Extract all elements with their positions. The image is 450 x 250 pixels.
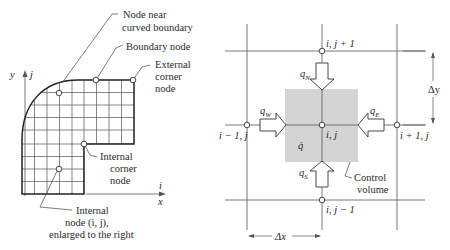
node-top [319, 48, 325, 54]
axis-label-x: x [157, 196, 163, 207]
node-center [319, 122, 325, 128]
label-node-near-1: Node near [123, 9, 167, 20]
axis-label-j: j [28, 69, 33, 80]
label-dy: Δy [428, 84, 441, 95]
label-flux-east: qE [370, 105, 380, 119]
node-near-curved-boundary [56, 90, 62, 96]
y-axis-arrow-icon [23, 70, 28, 77]
leader-control-volume [345, 162, 352, 178]
label-internal-corner-1: Internal [100, 151, 133, 162]
label-flux-west: qW [260, 105, 272, 119]
label-node-top: i, j + 1 [326, 38, 355, 49]
label-internal-node-1: Internal [76, 205, 109, 216]
label-control-volume-1: Control [354, 172, 386, 183]
node-bottom [319, 197, 325, 203]
right-stencil-diagram: i, j + 1 i, j i − 1, j i + 1, j i, j − 1… [219, 24, 441, 242]
label-internal-corner-3: node [110, 175, 131, 186]
external-corner-node [130, 77, 136, 83]
dx-arrow-left-icon [248, 234, 254, 238]
label-boundary-node: Boundary node [126, 41, 191, 52]
internal-node [56, 166, 62, 172]
left-mesh-diagram: Node near curved boundary Boundary node … [9, 9, 194, 240]
leader-external-corner [133, 65, 150, 80]
label-external-corner-2: corner [155, 71, 182, 82]
flux-arrow-west-icon [260, 113, 286, 137]
dy-arrow-down-icon [431, 118, 435, 124]
label-flux-north: qN [300, 68, 310, 82]
label-node-center: i, j [326, 129, 337, 140]
label-node-left: i − 1, j [219, 130, 248, 141]
leader-boundary-node [96, 45, 123, 80]
flux-arrow-south-icon [310, 161, 334, 187]
boundary-node [93, 77, 99, 83]
label-control-volume-2: volume [357, 184, 389, 195]
leader-internal-node [40, 169, 72, 210]
axis-label-i: i [159, 180, 162, 191]
label-internal-node-2: node (i, j), [65, 217, 109, 229]
label-internal-corner-2: corner [110, 163, 137, 174]
dx-arrow-right-icon [315, 234, 321, 238]
dy-arrow-up-icon [431, 52, 435, 58]
label-node-bottom: i, j − 1 [326, 204, 355, 215]
label-heat-generation: q̇ [298, 140, 303, 151]
node-left [244, 122, 250, 128]
flux-arrow-east-icon [358, 113, 384, 137]
label-node-right: i + 1, j [400, 130, 429, 141]
label-flux-south: qS [299, 167, 308, 181]
leader-node-near-curved [62, 14, 118, 83]
label-internal-node-3: enlarged to the right [49, 229, 134, 240]
label-external-corner-3: node [155, 83, 176, 94]
flux-arrow-north-icon [310, 63, 334, 90]
label-dx: Δx [274, 231, 286, 242]
label-node-near-2: curved boundary [122, 22, 194, 33]
node-right [394, 122, 400, 128]
finite-difference-diagram: Node near curved boundary Boundary node … [0, 0, 450, 250]
label-external-corner-1: External [155, 59, 191, 70]
internal-corner-node [81, 141, 87, 147]
axis-label-y: y [9, 69, 15, 80]
